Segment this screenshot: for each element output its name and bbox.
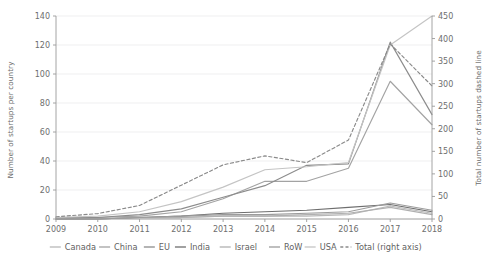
left-axis-tick-label: 80	[40, 99, 50, 108]
legend-label: EU	[159, 242, 170, 252]
x-axis-tick-label: 2018	[422, 225, 442, 234]
legend-label: USA	[320, 242, 337, 252]
legend-label: China	[114, 242, 137, 252]
right-axis-tick-label: 100	[438, 170, 453, 179]
left-axis-tick-label: 20	[40, 186, 50, 195]
left-axis-tick-label: 0	[45, 215, 50, 224]
right-axis-tick-label: 250	[438, 102, 453, 111]
right-axis-tick-label: 50	[438, 192, 448, 201]
left-axis-tick-label: 140	[35, 12, 50, 21]
chart-background	[0, 0, 490, 262]
x-axis-tick-label: 2010	[88, 225, 108, 234]
x-axis-tick-label: 2013	[213, 225, 233, 234]
right-axis-tick-label: 450	[438, 12, 453, 21]
line-chart: 020406080100120140 050100150200250300350…	[0, 0, 490, 262]
left-axis-tick-label: 100	[35, 70, 50, 79]
x-axis-tick-label: 2009	[46, 225, 66, 234]
legend-label: India	[190, 242, 210, 252]
x-axis-tick-label: 2017	[380, 225, 400, 234]
legend-label: RoW	[284, 242, 302, 252]
x-axis-tick-label: 2011	[129, 225, 149, 234]
left-axis-tick-label: 120	[35, 41, 50, 50]
left-axis-tick-label: 40	[40, 157, 50, 166]
x-axis-tick-label: 2014	[255, 225, 275, 234]
right-axis-tick-label: 400	[438, 35, 453, 44]
right-axis-tick-label: 150	[438, 147, 453, 156]
right-axis-tick-label: 200	[438, 125, 453, 134]
right-axis-tick-label: 0	[438, 215, 443, 224]
x-axis-tick-label: 2015	[296, 225, 316, 234]
left-axis-tick-label: 60	[40, 128, 50, 137]
legend-label: Canada	[65, 242, 96, 252]
legend-label: Total (right axis)	[354, 242, 421, 252]
right-axis-tick-label: 350	[438, 57, 453, 66]
legend-label: Israel	[235, 242, 257, 252]
x-axis-tick-label: 2016	[338, 225, 358, 234]
x-axis-tick-label: 2012	[171, 225, 191, 234]
y-axis-title: Number of startups per country	[6, 61, 15, 179]
y2-axis-title: Total number of startups dashed line	[474, 50, 483, 187]
right-axis-tick-label: 300	[438, 80, 453, 89]
